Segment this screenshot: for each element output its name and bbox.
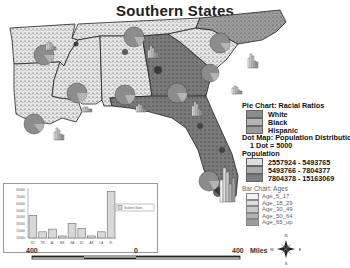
svg-text:N: N — [285, 233, 288, 238]
y-tick-label: 200000 — [16, 229, 25, 233]
x-tick-label: AL — [51, 241, 55, 245]
svg-text:E: E — [299, 247, 302, 252]
svg-text:W: W — [270, 247, 274, 252]
pie-alabama — [115, 85, 135, 105]
x-tick-label: NC — [31, 241, 35, 245]
pie-legend-white: White — [242, 110, 350, 118]
chart-legend-label: Southern States — [124, 206, 143, 210]
x-tick-label: FL — [109, 241, 113, 245]
chart-legend-swatch — [118, 206, 122, 210]
inset-chart-svg: 1000002000003000004000005000006000007000… — [4, 184, 157, 252]
bar-ms — [58, 236, 66, 238]
swatch-pop-1 — [246, 158, 263, 166]
y-tick-label: 300000 — [16, 222, 25, 226]
pie-south-carolina — [201, 64, 219, 82]
y-tick-label: 700000 — [16, 195, 25, 199]
bar-fl — [107, 191, 115, 238]
y-tick-label: 800000 — [16, 188, 25, 192]
y-tick-label: 600000 — [16, 202, 25, 206]
y-tick-label: 500000 — [16, 209, 25, 213]
pie-mississippi — [67, 83, 87, 103]
bar-legend-title: Bar Chart: Ages — [242, 185, 350, 193]
swatch-black — [246, 118, 263, 126]
pie-tennessee — [124, 27, 144, 47]
bar-nc — [29, 215, 37, 238]
y-tick-label: 400000 — [16, 215, 25, 219]
x-tick-label: TN — [41, 241, 45, 245]
map-legend: Pie Chart: Racial Ratios White Black His… — [242, 102, 350, 226]
swatch-white — [246, 110, 263, 118]
inset-bar-chart: 1000002000003000004000005000006000007000… — [3, 183, 158, 253]
x-tick-label: GA — [70, 241, 74, 245]
scale-bar — [32, 256, 240, 259]
bar-al — [49, 229, 57, 238]
pie-north-carolina — [210, 33, 230, 53]
scale-unit-label: Miles — [250, 247, 268, 254]
age-legend-5: Age_65_up — [242, 219, 350, 226]
x-tick-label: MS — [60, 241, 64, 245]
scale-left-label: 400 — [26, 247, 38, 254]
pie-legend-title: Pie Chart: Racial Ratios — [242, 102, 350, 110]
pie-louisiana — [24, 114, 44, 134]
x-tick-label: AR — [90, 241, 94, 245]
bar-sc — [78, 228, 86, 238]
scale-right-label: 400 — [232, 247, 244, 254]
bar-tn — [39, 232, 47, 238]
pie-florida — [199, 171, 219, 191]
y-tick-label: 100000 — [16, 236, 25, 240]
compass-rose-icon: N S E W — [270, 233, 302, 266]
swatch-age-5 — [246, 219, 259, 226]
pop-legend-3: 7804378 - 15163069 — [242, 174, 350, 182]
svg-text:S: S — [285, 261, 288, 266]
bar-ar — [88, 236, 96, 238]
x-tick-label: SC — [80, 241, 84, 245]
x-tick-label: LA — [100, 241, 104, 245]
pie-georgia — [167, 83, 187, 103]
scale-mid-label: 0 — [134, 247, 138, 254]
bar-la — [97, 232, 105, 238]
swatch-pop-3 — [246, 174, 263, 182]
bar-ga — [68, 224, 76, 238]
swatch-pop-2 — [246, 166, 263, 174]
